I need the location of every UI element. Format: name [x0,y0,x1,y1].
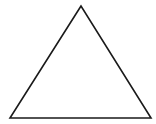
triangle-figure [0,0,156,124]
triangle-shape [10,6,151,118]
diagram-canvas [0,0,156,124]
